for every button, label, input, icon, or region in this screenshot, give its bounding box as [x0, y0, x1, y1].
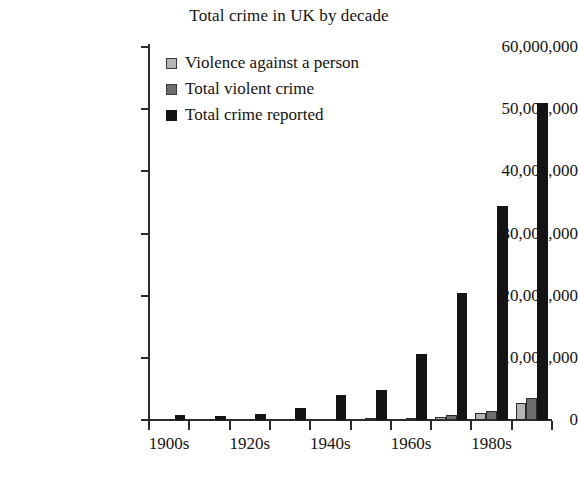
chart-legend: Violence against a personTotal violent c…: [166, 50, 426, 128]
legend-item: Total violent crime: [166, 76, 426, 102]
bar: [457, 293, 468, 420]
bar-group: [516, 47, 548, 420]
x-axis-tick-mark: [269, 421, 271, 430]
legend-swatch-icon: [166, 84, 177, 95]
bar-group: [435, 47, 467, 420]
x-axis-tick-label: 1940s: [310, 434, 351, 454]
bar-group: [475, 47, 507, 420]
x-axis-tick-mark: [188, 421, 190, 430]
x-axis-tick-mark: [470, 421, 472, 430]
bar: [175, 415, 186, 420]
x-axis-tick-mark: [511, 421, 513, 430]
bar: [486, 411, 497, 420]
x-axis-tick-mark: [430, 421, 432, 430]
bar: [537, 103, 548, 420]
bar: [295, 408, 306, 420]
chart-title: Total crime in UK by decade: [0, 6, 578, 26]
y-axis-tick-mark: [141, 46, 149, 48]
x-axis-tick-mark: [390, 421, 392, 430]
y-axis-tick-mark: [141, 357, 149, 359]
bar: [255, 414, 266, 420]
bar: [516, 403, 527, 420]
y-axis-tick-mark: [141, 233, 149, 235]
y-axis-tick-mark: [141, 295, 149, 297]
bar: [376, 390, 387, 420]
x-axis-tick-label: 1900s: [149, 434, 190, 454]
bar: [475, 413, 486, 420]
x-axis-tick-mark: [350, 421, 352, 430]
x-axis-tick-mark: [148, 421, 150, 430]
y-axis-tick-mark: [141, 170, 149, 172]
legend-swatch-icon: [166, 110, 177, 121]
x-axis-tick-mark: [229, 421, 231, 430]
bar: [497, 206, 508, 420]
x-axis-tick-label: 1960s: [391, 434, 432, 454]
bar: [336, 395, 347, 420]
legend-swatch-icon: [166, 58, 177, 69]
legend-label: Violence against a person: [185, 54, 359, 72]
legend-item: Total crime reported: [166, 102, 426, 128]
legend-label: Total crime reported: [185, 106, 324, 124]
bar: [406, 418, 417, 420]
bar-chart: Total crime in UK by decade 010,000,0002…: [0, 0, 578, 478]
legend-item: Violence against a person: [166, 50, 426, 76]
bar: [526, 398, 537, 420]
legend-label: Total violent crime: [185, 80, 314, 98]
bar: [416, 354, 427, 420]
bar: [365, 418, 376, 420]
x-axis-tick-label: 1980s: [471, 434, 512, 454]
x-axis-tick-label: 1920s: [229, 434, 270, 454]
bar: [446, 415, 457, 420]
x-axis-tick-mark: [551, 421, 553, 430]
y-axis-tick-mark: [141, 108, 149, 110]
x-axis-tick-mark: [309, 421, 311, 430]
bar: [215, 416, 226, 420]
bar: [435, 417, 446, 420]
